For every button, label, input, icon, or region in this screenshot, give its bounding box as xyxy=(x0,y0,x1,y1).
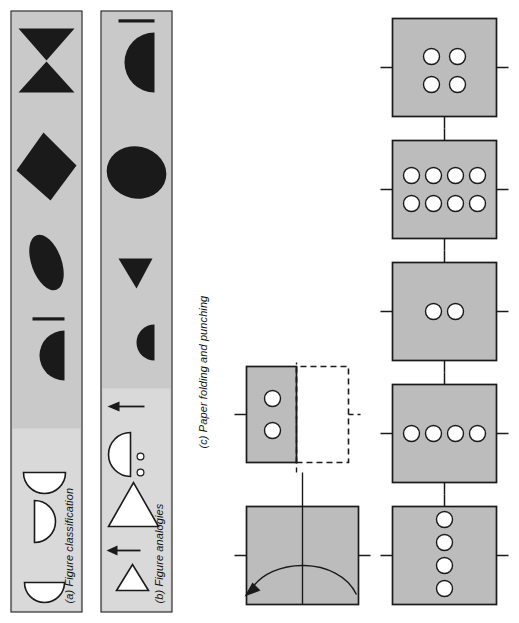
panel-b-dots xyxy=(137,453,144,476)
panel-b-graphics xyxy=(100,10,172,612)
panel-b-option-half-disc xyxy=(108,432,130,476)
panel-c-stem-fold-sheet xyxy=(234,472,370,604)
panel-c-caption-text: Paper folding and punching xyxy=(196,295,208,432)
panel-c-caption-lead: (c) xyxy=(196,432,208,448)
option-F[interactable] xyxy=(380,494,508,604)
panel-a-option-3 xyxy=(23,472,65,493)
panel-a-graphics xyxy=(10,10,82,612)
option-G[interactable] xyxy=(380,372,508,494)
panel-b-option-triangle-small xyxy=(116,564,148,590)
panel-a-stem-diamond xyxy=(16,132,76,200)
panel-c-stem-punched-sheet xyxy=(234,362,360,472)
panel-b-arrow-2 xyxy=(107,401,144,411)
panel-a-stem-tilted-ellipse xyxy=(22,230,70,295)
panel-b-stem-small-half-disc xyxy=(136,324,154,360)
panel-b-stem-half-disc-with-bar xyxy=(118,19,154,92)
panel-b-stem-small-triangle xyxy=(118,258,152,288)
panel-c-stem xyxy=(230,362,370,612)
figure-root: (a) Figure classification xyxy=(0,0,519,623)
panel-c-options xyxy=(378,10,510,612)
panel-a-stem-bowtie xyxy=(18,28,74,92)
option-H[interactable] xyxy=(380,250,508,372)
panel-a-option-2 xyxy=(34,500,55,542)
option-J[interactable] xyxy=(380,128,508,250)
panel-b-option-triangle-large xyxy=(108,482,158,526)
panel-b-stem-ellipse xyxy=(101,140,171,203)
panel-a-stem-half-disc-with-bar xyxy=(32,317,64,380)
panel-c-caption: (c) Paper folding and punching xyxy=(196,295,208,448)
panel-b-arrow-1 xyxy=(106,545,140,555)
rotated-figure-stage: (a) Figure classification xyxy=(0,0,519,623)
option-K[interactable] xyxy=(380,18,508,128)
panel-a-option-1 xyxy=(24,582,64,602)
